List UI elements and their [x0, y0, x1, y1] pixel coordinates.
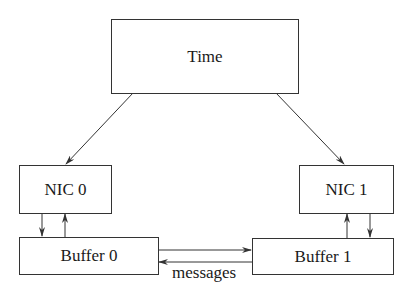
node-time: Time: [111, 19, 299, 94]
node-nic1-label: NIC 1: [325, 180, 367, 200]
node-nic1: NIC 1: [299, 165, 394, 214]
node-buffer0-label: Buffer 0: [61, 246, 118, 266]
edge-time-to-nic0: [66, 93, 133, 164]
node-nic0-label: NIC 0: [44, 180, 86, 200]
diagram-canvas: Time NIC 0 NIC 1 Buffer 0 Buffer 1 messa…: [0, 0, 411, 299]
node-time-label: Time: [187, 47, 222, 67]
node-buffer0: Buffer 0: [19, 237, 159, 275]
edge-label-messages: messages: [172, 263, 236, 283]
edge-time-to-nic1: [276, 93, 344, 164]
node-buffer1: Buffer 1: [252, 238, 394, 275]
node-nic0: NIC 0: [19, 165, 112, 214]
node-buffer1-label: Buffer 1: [295, 247, 352, 267]
